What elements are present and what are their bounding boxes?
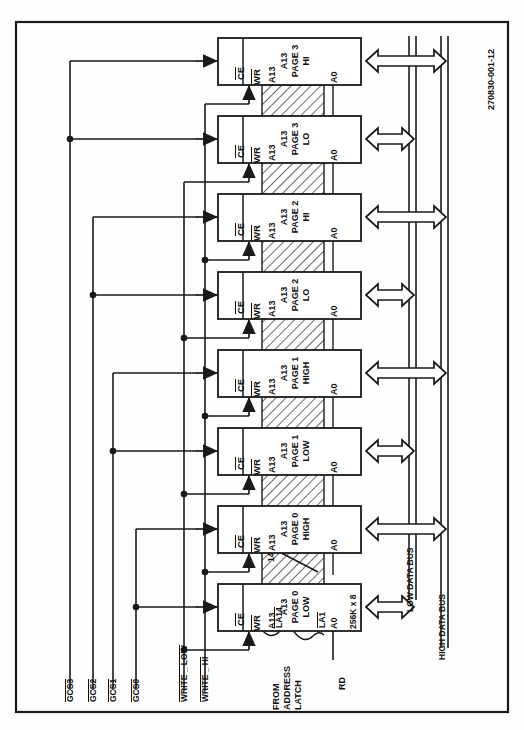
block-page2lo-a13: A13 bbox=[268, 300, 277, 317]
block-page1low-ce: CE bbox=[236, 457, 246, 470]
block-page2lo-name-3: LO bbox=[302, 273, 311, 317]
block-page3hi-ce: CE bbox=[236, 67, 246, 80]
block-page1high-wr: WR bbox=[252, 381, 262, 397]
block-page1low-name-2: PAGE 1 bbox=[291, 429, 300, 473]
block-page0high-name-2: PAGE 0 bbox=[291, 507, 300, 551]
block-page1low-name-3: LOW bbox=[302, 429, 311, 473]
block-page3lo-name-2: PAGE 3 bbox=[291, 117, 300, 161]
block-page1high-a13: A13 bbox=[268, 378, 277, 395]
address-latch-line1: FROM bbox=[272, 684, 281, 711]
block-page0high-ce: CE bbox=[236, 535, 246, 548]
signal-label-gcs1: GCS1 bbox=[109, 679, 118, 702]
address-latch-line3: LATCH bbox=[294, 680, 303, 710]
block-page3lo-a13: A13 bbox=[268, 144, 277, 161]
block-page2lo-name-2: PAGE 2 bbox=[291, 273, 300, 317]
address-bus-la1-label: LA1 bbox=[318, 612, 327, 628]
block-page3lo-a0: A0 bbox=[330, 149, 339, 161]
block-page1low-wr: WR bbox=[252, 459, 262, 475]
block-page0high-name-1: A13 bbox=[280, 507, 289, 551]
block-page0low-wr: WR bbox=[252, 615, 262, 631]
signal-label-gcs2: GCS2 bbox=[89, 679, 98, 702]
block-page2lo-a0: A0 bbox=[330, 305, 339, 317]
block-page1high-name-3: HIGH bbox=[302, 351, 311, 395]
block-page0high-wr: WR bbox=[252, 537, 262, 553]
block-page0high-a13: A13 bbox=[268, 534, 277, 551]
block-page0low-a0: A0 bbox=[330, 617, 339, 629]
block-page2lo-wr: WR bbox=[252, 303, 262, 319]
bus-label-low-data-bus: LOW DATA BUS bbox=[406, 547, 415, 612]
gcs2-route bbox=[90, 217, 197, 660]
gcs3-route bbox=[67, 61, 197, 660]
block-page2hi-name-1: A13 bbox=[280, 195, 289, 239]
bus-label-high-data-bus: HIGH DATA BUS bbox=[438, 594, 447, 660]
block-page2hi-ce: CE bbox=[236, 223, 246, 236]
block-page3lo-ce: CE bbox=[236, 145, 246, 158]
block-page2hi-a0: A0 bbox=[330, 227, 339, 239]
block-page2hi-name-2: PAGE 2 bbox=[291, 195, 300, 239]
block-page1low-a13: A13 bbox=[268, 456, 277, 473]
block-page2lo-ce: CE bbox=[236, 301, 246, 314]
block-page1high-name-1: A13 bbox=[280, 351, 289, 395]
block-page3hi-name-1: A13 bbox=[280, 39, 289, 83]
ce-input-arrows bbox=[196, 61, 217, 607]
block-page1high-name-2: PAGE 1 bbox=[291, 351, 300, 395]
signal-label-gcs0: GCS0 bbox=[132, 679, 141, 702]
block-page3hi-a13: A13 bbox=[268, 66, 277, 83]
block-page1low-a0: A0 bbox=[330, 461, 339, 473]
address-bus-width-label: 14 bbox=[267, 553, 276, 562]
block-page3lo-wr: WR bbox=[252, 147, 262, 163]
block-page3hi-name-3: HI bbox=[302, 39, 311, 83]
block-page0high-name-3: HIGH bbox=[302, 507, 311, 551]
block-page0low-name-3: LOW bbox=[302, 585, 311, 629]
signal-label-write-hi: WRITE _ HI bbox=[201, 657, 210, 702]
rd-signal-label: RD bbox=[338, 677, 347, 690]
write-low-route bbox=[181, 182, 249, 653]
address-bus-la14-label: LA14 bbox=[275, 607, 284, 628]
block-page3hi-name-2: PAGE 3 bbox=[291, 39, 300, 83]
block-page0low-name-2: PAGE 0 bbox=[291, 585, 300, 629]
document-id: 270830-001-12 bbox=[487, 49, 496, 110]
gcs0-route bbox=[133, 529, 197, 660]
block-page0high-a0: A0 bbox=[330, 539, 339, 551]
block-page1high-ce: CE bbox=[236, 379, 246, 392]
block-page2hi-wr: WR bbox=[252, 225, 262, 241]
block-page2hi-a13: A13 bbox=[268, 222, 277, 239]
block-page2hi-name-3: HI bbox=[302, 195, 311, 239]
block-page3lo-name-1: A13 bbox=[280, 117, 289, 161]
signal-label-gcs3: GCS3 bbox=[66, 679, 75, 702]
block-page3hi-a0: A0 bbox=[330, 71, 339, 83]
signal-label-write-low: WRITE _ LOW bbox=[180, 645, 189, 702]
block-page3hi-wr: WR bbox=[252, 69, 262, 85]
block-page1high-a0: A0 bbox=[330, 383, 339, 395]
block-page2lo-name-1: A13 bbox=[280, 273, 289, 317]
block-page1low-name-1: A13 bbox=[280, 429, 289, 473]
address-latch-line2: ADDRESS bbox=[283, 666, 292, 710]
block-page0low-ce: CE bbox=[236, 613, 246, 626]
block-page3lo-name-3: LO bbox=[302, 117, 311, 161]
memory-size-label: 256K x 8 bbox=[349, 595, 358, 630]
diagram-canvas: 270830-001-12 CE WR A13 A0 A13 PAGE 3 HI… bbox=[0, 0, 524, 730]
